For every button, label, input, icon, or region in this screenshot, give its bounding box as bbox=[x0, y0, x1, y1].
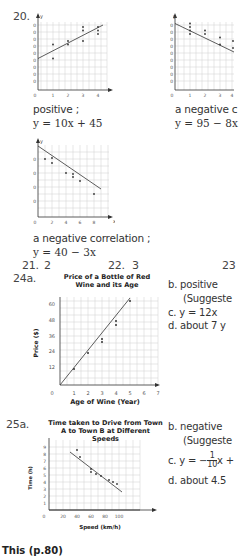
svg-text:6: 6 bbox=[43, 466, 46, 471]
fraction: 110 bbox=[207, 452, 217, 469]
svg-text:36: 36 bbox=[49, 333, 55, 339]
svg-text:1: 1 bbox=[52, 93, 55, 98]
svg-text:3: 3 bbox=[219, 93, 222, 98]
svg-text:90: 90 bbox=[33, 23, 36, 28]
svg-text:10: 10 bbox=[33, 79, 36, 84]
answer-20c-label: a negative correlation ; bbox=[33, 232, 150, 244]
answer-20a-equation: y = 10x + 45 bbox=[33, 117, 103, 129]
svg-text:1: 1 bbox=[72, 390, 75, 396]
svg-text:4: 4 bbox=[65, 220, 68, 225]
answer-20c-equation: y = 40 − 3x bbox=[33, 246, 96, 258]
chart-24-title: Price of a Bottle of Red Wine and its Ag… bbox=[62, 273, 152, 289]
svg-text:2: 2 bbox=[67, 93, 70, 98]
svg-text:8: 8 bbox=[43, 452, 46, 457]
svg-text:80: 80 bbox=[33, 30, 36, 35]
answer-24d: d. about 7 y bbox=[168, 320, 226, 331]
svg-text:4: 4 bbox=[114, 390, 117, 396]
section-footer: This (p.80) bbox=[2, 545, 63, 556]
svg-text:60: 60 bbox=[170, 44, 173, 49]
svg-text:80: 80 bbox=[170, 30, 173, 35]
svg-text:7: 7 bbox=[43, 459, 46, 464]
svg-text:50: 50 bbox=[170, 51, 173, 56]
svg-text:20: 20 bbox=[33, 185, 36, 190]
svg-text:60: 60 bbox=[88, 514, 94, 519]
svg-text:1: 1 bbox=[189, 93, 192, 98]
scatter-chart-20a: y x 908070605040302010 01234 bbox=[33, 10, 113, 98]
svg-text:60: 60 bbox=[49, 301, 55, 307]
svg-text:4: 4 bbox=[43, 480, 46, 485]
answer-24b-note: (Suggeste bbox=[183, 293, 232, 304]
svg-text:9: 9 bbox=[43, 445, 46, 450]
fraction-denominator: 10 bbox=[207, 461, 217, 469]
answer-25d: d. about 4.5 bbox=[168, 475, 226, 486]
svg-text:y: y bbox=[40, 138, 43, 145]
svg-text:6: 6 bbox=[79, 220, 82, 225]
answer-20b-label: a negative c bbox=[175, 103, 237, 115]
svg-text:20: 20 bbox=[33, 72, 36, 77]
svg-text:5: 5 bbox=[128, 390, 131, 396]
answer-22: 3 bbox=[132, 259, 139, 272]
chart-25-xlabel: Speed (km/h) bbox=[60, 523, 140, 531]
scatter-chart-20b: y 908070605040302010 01234 bbox=[170, 10, 234, 98]
svg-text:10: 10 bbox=[170, 79, 173, 84]
answer-25c-prefix: c. y = − bbox=[168, 455, 207, 466]
answer-24c: c. y = 12x bbox=[168, 307, 217, 318]
svg-text:0: 0 bbox=[34, 220, 37, 225]
svg-text:40: 40 bbox=[33, 157, 36, 162]
question-number-22: 22. bbox=[108, 259, 125, 272]
svg-text:70: 70 bbox=[170, 37, 173, 42]
svg-text:y: y bbox=[40, 13, 43, 20]
svg-text:48: 48 bbox=[49, 317, 55, 323]
svg-text:30: 30 bbox=[33, 65, 36, 70]
answer-21: 2 bbox=[44, 259, 51, 272]
svg-text:2: 2 bbox=[204, 93, 207, 98]
svg-text:80: 80 bbox=[102, 514, 108, 519]
answer-25c-suffix: x + bbox=[217, 455, 234, 466]
answer-20a-label: positive ; bbox=[33, 103, 79, 115]
answer-25c: c. y = −110x + bbox=[168, 452, 234, 469]
svg-text:2: 2 bbox=[51, 220, 54, 225]
svg-text:3: 3 bbox=[100, 390, 103, 396]
svg-text:50: 50 bbox=[33, 51, 36, 56]
svg-text:7: 7 bbox=[156, 390, 159, 396]
question-number-20: 20. bbox=[13, 10, 30, 23]
svg-text:5: 5 bbox=[43, 473, 46, 478]
svg-text:40: 40 bbox=[74, 514, 80, 519]
svg-text:12: 12 bbox=[49, 364, 55, 370]
svg-text:30: 30 bbox=[170, 65, 173, 70]
svg-text:y: y bbox=[173, 13, 176, 20]
chart-24-ylabel: Price ($) bbox=[32, 328, 39, 357]
svg-text:0: 0 bbox=[43, 514, 46, 519]
answer-24b: b. positive bbox=[168, 279, 218, 290]
chart-25-ylabel: Time (h) bbox=[27, 466, 33, 490]
answer-25b: b. negative bbox=[168, 421, 222, 432]
svg-text:100: 100 bbox=[115, 514, 124, 519]
question-number-24a: 24a. bbox=[13, 272, 36, 285]
svg-text:0: 0 bbox=[171, 93, 174, 98]
svg-text:24: 24 bbox=[49, 348, 55, 354]
answer-20b-equation: y = 95 − 8x bbox=[175, 117, 238, 129]
svg-text:4: 4 bbox=[231, 93, 234, 98]
answer-25b-note: (Suggeste bbox=[183, 435, 232, 446]
svg-text:90: 90 bbox=[170, 23, 173, 28]
svg-text:2: 2 bbox=[86, 390, 89, 396]
scatter-chart-24: 6048362412 01234567 Price ($) bbox=[30, 295, 160, 405]
svg-text:70: 70 bbox=[33, 37, 36, 42]
svg-text:2: 2 bbox=[43, 494, 46, 499]
svg-text:30: 30 bbox=[33, 171, 36, 176]
svg-text:40: 40 bbox=[33, 58, 36, 63]
svg-text:3: 3 bbox=[43, 487, 46, 492]
svg-text:4: 4 bbox=[97, 93, 100, 98]
scatter-chart-20c: y x 40302010 02468 bbox=[33, 137, 115, 225]
svg-text:3: 3 bbox=[82, 93, 85, 98]
svg-text:x: x bbox=[113, 218, 115, 224]
svg-text:60: 60 bbox=[33, 44, 36, 49]
question-number-21: 21. bbox=[22, 259, 39, 272]
chart-24-xlabel: Age of Wine (Year) bbox=[55, 398, 155, 406]
svg-text:6: 6 bbox=[142, 390, 145, 396]
svg-text:20: 20 bbox=[60, 514, 66, 519]
question-number-25a: 25a. bbox=[6, 418, 29, 431]
question-number-23: 23 bbox=[222, 259, 235, 272]
svg-text:0: 0 bbox=[50, 390, 53, 396]
svg-text:40: 40 bbox=[170, 58, 173, 63]
